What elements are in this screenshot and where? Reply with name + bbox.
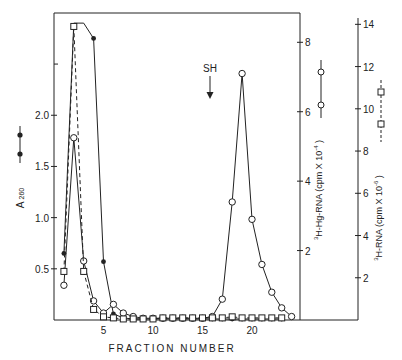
y-tick-label: 2 [305,246,311,257]
data-point [101,259,106,264]
y-tick-label: 8 [363,146,369,157]
data-point [101,314,107,320]
data-point [249,216,255,222]
data-point [180,315,186,321]
right-inner-legend-marker-icon [318,60,324,118]
data-point [110,301,116,307]
y-tick-label: 8 [305,37,311,48]
data-point [160,315,166,321]
y-tick-label: 4 [305,176,311,187]
y-tick-label: 2.0 [35,110,49,121]
svg-text:A260: A260 [15,188,26,208]
data-point [61,282,67,288]
data-point [229,314,235,320]
data-point [81,268,87,274]
data-point [279,315,285,321]
data-point [200,315,206,321]
data-point [269,315,275,321]
y-tick-label: 14 [363,19,375,30]
fractionation-chart: 5101520 0.51.01.52.0 2468 2468101214 FRA… [0,0,402,360]
y-tick-label: 0.5 [35,264,49,275]
data-point [120,310,126,316]
y-tick-label: 4 [363,231,369,242]
data-point [209,315,215,321]
data-point [239,70,245,76]
sh-label: SH [203,63,217,74]
data-point [71,135,77,141]
right-inner-y-axis: 2468 [297,37,311,256]
data-point [229,199,235,205]
data-point [140,316,146,322]
left-y-axis: 0.51.01.52.0 [35,64,58,275]
data-point [71,23,77,29]
left-legend-marker-icon [17,126,22,163]
right-outer-axis-title: 3H-RNA (cpm X 10-6 ) [373,175,384,261]
data-point [110,315,116,321]
x-tick-label: 15 [197,325,209,336]
y-tick-label: 1.0 [35,213,49,224]
y-tick-label: 2 [363,273,369,284]
data-point [91,306,97,312]
y-tick-label: 12 [363,62,375,73]
data-point [150,316,156,322]
data-point [91,36,96,41]
y-tick-label: 10 [363,104,375,115]
data-point [190,315,196,321]
arrowhead-icon [207,92,214,99]
data-point [219,315,225,321]
data-point [249,315,255,321]
right-inner-axis-title: 3H-Hg-RNA (cpm X 10-4 ) [313,140,324,240]
data-point [219,296,225,302]
y-tick-label: 6 [363,188,369,199]
y-tick-label: 1.5 [35,161,49,172]
svg-text:3H-Hg-RNA (cpm X 10-4 ): 3H-Hg-RNA (cpm X 10-4 ) [313,140,324,240]
x-tick-label: 20 [246,325,258,336]
data-point [269,289,275,295]
data-point [259,315,265,321]
sh-annotation: SH [203,63,217,99]
data-point [259,261,265,267]
y-tick-label: 6 [305,107,311,118]
data-point [288,313,294,319]
data-point [130,316,136,322]
svg-text:3H-RNA (cpm X 10-6 ): 3H-RNA (cpm X 10-6 ) [373,175,384,261]
data-point [239,315,245,321]
x-tick-label: 5 [101,325,107,336]
data-point [279,305,285,311]
data-point [120,316,126,322]
data-series [61,23,295,322]
data-point [61,268,67,274]
right-outer-legend-marker-icon [378,80,384,142]
left-axis-title: A260 [15,188,26,208]
x-tick-label: 10 [147,325,159,336]
x-axis-label: FRACTION NUMBER [108,343,235,354]
data-point [170,315,176,321]
